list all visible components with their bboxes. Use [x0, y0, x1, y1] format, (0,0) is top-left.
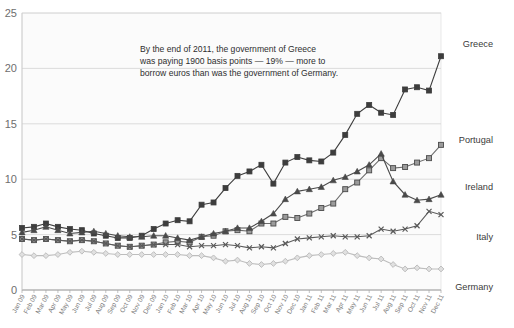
data-point-marker [415, 160, 420, 165]
y-axis-tick-label: 5 [11, 229, 17, 241]
data-point-marker [403, 165, 408, 170]
data-point-marker [283, 214, 288, 219]
data-point-marker [343, 132, 348, 137]
data-point-marker [271, 221, 276, 226]
chart-container: 0510152025Jan 09Feb 09Mar 09Apr 09May 09… [0, 0, 514, 328]
data-point-marker [199, 202, 204, 207]
data-point-marker [343, 187, 348, 192]
data-point-marker [295, 155, 300, 160]
series-label-italy: Italy [476, 232, 493, 242]
data-point-marker [367, 102, 372, 107]
data-point-marker [403, 87, 408, 92]
data-point-marker [355, 180, 360, 185]
y-axis-tick-label: 20 [5, 62, 17, 74]
data-point-marker [307, 211, 312, 216]
data-point-marker [427, 88, 432, 93]
y-axis-tick-label: 25 [5, 7, 17, 19]
data-point-marker [235, 173, 240, 178]
data-point-marker [283, 160, 288, 165]
annotation-line: was paying 1900 basis points — 19% — mor… [139, 56, 326, 66]
data-point-marker [439, 142, 444, 147]
data-point-marker [295, 215, 300, 220]
series-label-portugal: Portugal [459, 135, 493, 145]
series-label-greece: Greece [463, 39, 493, 49]
data-point-marker [391, 112, 396, 117]
data-point-marker [427, 156, 432, 161]
data-point-marker [415, 85, 420, 90]
data-point-marker [163, 221, 168, 226]
series-label-ireland: Ireland [465, 182, 493, 192]
data-point-marker [319, 206, 324, 211]
y-axis-tick-label: 0 [11, 284, 17, 296]
annotation-line: By the end of 2011, the government of Gr… [140, 44, 316, 54]
data-point-marker [391, 166, 396, 171]
data-point-marker [151, 227, 156, 232]
series-label-germany: Germany [455, 282, 493, 292]
annotation-line: borrow euros than was the government of … [140, 68, 338, 78]
data-point-marker [379, 110, 384, 115]
data-point-marker [355, 111, 360, 116]
plot-area [22, 13, 441, 290]
data-point-marker [271, 181, 276, 186]
data-point-marker [223, 186, 228, 191]
data-point-marker [331, 150, 336, 155]
data-point-marker [331, 201, 336, 206]
y-axis-tick-label: 15 [5, 118, 17, 130]
data-point-marker [259, 162, 264, 167]
data-point-marker [367, 168, 372, 173]
data-point-marker [247, 169, 252, 174]
data-point-marker [319, 159, 324, 164]
data-point-marker [439, 54, 444, 59]
y-axis-tick-label: 10 [5, 173, 17, 185]
line-chart: 0510152025Jan 09Feb 09Mar 09Apr 09May 09… [0, 0, 514, 328]
data-point-marker [211, 200, 216, 205]
data-point-marker [187, 219, 192, 224]
data-point-marker [307, 158, 312, 163]
data-point-marker [175, 218, 180, 223]
